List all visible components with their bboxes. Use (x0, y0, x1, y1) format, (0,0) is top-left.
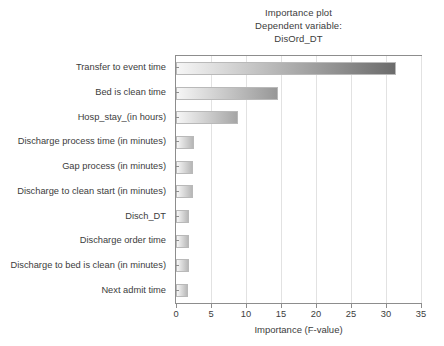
bar-row (176, 81, 423, 106)
bar-row (176, 254, 423, 279)
x-axis-tick (246, 304, 247, 308)
bar-row (176, 130, 423, 155)
x-axis-tick-label: 15 (266, 309, 296, 319)
y-axis-tick (175, 117, 179, 118)
bar-row (176, 278, 423, 303)
bar (176, 161, 193, 174)
bar (176, 62, 396, 75)
bar-row (176, 180, 423, 205)
x-axis-tick-label: 35 (406, 309, 436, 319)
chart-dependent-variable: DisOrd_DT (175, 32, 422, 45)
y-axis-label: Discharge to clean start (in minutes) (17, 179, 166, 204)
y-axis-label: Discharge to bed is clean (in minutes) (10, 253, 166, 278)
y-axis-labels: Transfer to event timeBed is clean timeH… (0, 55, 172, 304)
bars-layer (176, 56, 421, 303)
x-axis-tick-label: 25 (336, 309, 366, 319)
bar-row (176, 229, 423, 254)
x-axis-tick-label: 0 (161, 309, 191, 319)
y-axis-tick (175, 290, 179, 291)
chart-subtitle: Dependent variable: (175, 19, 422, 32)
bar (176, 111, 238, 124)
bar-row (176, 155, 423, 180)
y-axis-label: Hosp_stay_(in hours) (78, 104, 166, 129)
bar-row (176, 105, 423, 130)
y-axis-tick (175, 265, 179, 266)
x-axis-tick (281, 304, 282, 308)
x-axis-tick (316, 304, 317, 308)
importance-plot-chart: Importance plot Dependent variable: DisO… (0, 0, 444, 346)
plot-area (175, 55, 422, 304)
y-axis-tick (175, 67, 179, 68)
bar-row (176, 204, 423, 229)
x-axis-tick-label: 10 (231, 309, 261, 319)
x-axis-tick-label: 20 (301, 309, 331, 319)
x-axis-tick (421, 304, 422, 308)
x-axis-tick (386, 304, 387, 308)
bar (176, 136, 194, 149)
chart-title-block: Importance plot Dependent variable: DisO… (175, 6, 422, 45)
y-axis-label: Bed is clean time (95, 80, 166, 105)
x-axis-tick-label: 30 (371, 309, 401, 319)
x-axis-tick (176, 304, 177, 308)
y-axis-label: Disch_DT (125, 203, 166, 228)
y-axis-label: Discharge process time (in minutes) (18, 129, 166, 154)
bar-row (176, 56, 423, 81)
y-axis-tick (175, 92, 179, 93)
x-axis-tick-label: 5 (196, 309, 226, 319)
bar (176, 87, 278, 100)
chart-title: Importance plot (175, 6, 422, 19)
x-axis-tick (211, 304, 212, 308)
y-axis-tick (175, 240, 179, 241)
y-axis-tick (175, 141, 179, 142)
y-axis-tick (175, 191, 179, 192)
bar (176, 185, 193, 198)
y-axis-label: Gap process (in minutes) (62, 154, 166, 179)
x-axis-tick (351, 304, 352, 308)
y-axis-tick (175, 166, 179, 167)
y-axis-label: Next admit time (101, 277, 166, 302)
y-axis-label: Discharge order time (80, 228, 166, 253)
x-axis-title: Importance (F-value) (175, 324, 422, 335)
bar (176, 284, 188, 297)
y-axis-label: Transfer to event time (76, 55, 166, 80)
y-axis-tick (175, 216, 179, 217)
bar (176, 259, 189, 272)
